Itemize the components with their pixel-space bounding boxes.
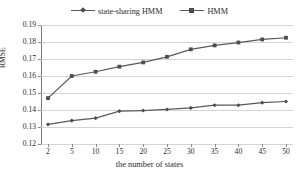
data-point-marker	[165, 107, 169, 111]
x-tick-mark	[96, 144, 97, 147]
y-tick-mark	[38, 144, 41, 145]
y-tick-label: 0.16	[4, 72, 36, 80]
data-point-marker	[94, 70, 98, 74]
y-tick-label: 0.14	[4, 106, 36, 114]
data-point-marker	[260, 38, 264, 42]
data-point-marker	[141, 108, 145, 112]
data-point-marker	[236, 103, 240, 107]
y-axis-title: RMSE	[0, 47, 7, 68]
series-line-hmm	[48, 38, 286, 98]
x-tick-mark	[286, 144, 287, 147]
series-line-state-sharing-hmm	[48, 102, 286, 125]
x-tick-label: 45	[251, 147, 273, 156]
x-tick-label: 2	[37, 147, 59, 156]
legend-entry-state-sharing-hmm[interactable]: state-sharing HMM	[71, 7, 162, 16]
data-point-marker	[213, 103, 217, 107]
x-tick-mark	[215, 144, 216, 147]
data-point-marker	[213, 44, 217, 48]
data-point-marker	[284, 99, 288, 103]
data-point-marker	[70, 74, 74, 78]
x-tick-label: 5	[61, 147, 83, 156]
legend-label-state-sharing-hmm: state-sharing HMM	[98, 7, 162, 16]
y-tick-label: 0.15	[4, 89, 36, 97]
x-tick-mark	[191, 144, 192, 147]
data-point-marker	[237, 41, 241, 45]
series-layer	[41, 25, 293, 144]
legend-marker-diamond-icon	[71, 7, 95, 15]
x-tick-label: 20	[132, 147, 154, 156]
x-tick-label: 40	[227, 147, 249, 156]
data-point-marker	[165, 55, 169, 59]
data-point-marker	[260, 101, 264, 105]
x-tick-mark	[119, 144, 120, 147]
x-tick-mark	[48, 144, 49, 147]
x-tick-mark	[238, 144, 239, 147]
x-tick-mark	[143, 144, 144, 147]
data-point-marker	[117, 109, 121, 113]
data-point-marker	[284, 36, 288, 40]
legend-label-hmm: HMM	[207, 7, 227, 16]
data-point-marker	[189, 47, 193, 51]
x-axis-title: the number of states	[0, 160, 299, 170]
data-point-marker	[70, 118, 74, 122]
data-point-marker	[118, 65, 122, 69]
x-tick-label: 25	[156, 147, 178, 156]
x-tick-label: 15	[108, 147, 130, 156]
data-point-marker	[141, 61, 145, 65]
rmse-line-chart: state-sharing HMM HMM 0.190.180.170.160.…	[0, 0, 299, 178]
y-tick-label: 0.12	[4, 140, 36, 148]
x-tick-label: 50	[275, 147, 297, 156]
x-tick-mark	[72, 144, 73, 147]
y-tick-label: 0.13	[4, 123, 36, 131]
legend-marker-square-icon	[180, 7, 204, 15]
legend-entry-hmm[interactable]: HMM	[180, 7, 227, 16]
data-point-marker	[46, 96, 50, 100]
chart-legend: state-sharing HMM HMM	[0, 4, 299, 18]
y-tick-label: 0.17	[4, 55, 36, 63]
y-tick-label: 0.18	[4, 38, 36, 46]
y-tick-label: 0.19	[4, 21, 36, 29]
data-point-marker	[46, 122, 50, 126]
x-tick-mark	[167, 144, 168, 147]
x-tick-mark	[262, 144, 263, 147]
x-tick-label: 35	[204, 147, 226, 156]
data-point-marker	[94, 116, 98, 120]
x-tick-label: 30	[180, 147, 202, 156]
data-point-marker	[189, 106, 193, 110]
x-tick-label: 10	[85, 147, 107, 156]
